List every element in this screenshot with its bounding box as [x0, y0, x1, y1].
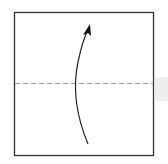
fold-diagram	[0, 0, 168, 164]
side-tab	[155, 77, 168, 101]
